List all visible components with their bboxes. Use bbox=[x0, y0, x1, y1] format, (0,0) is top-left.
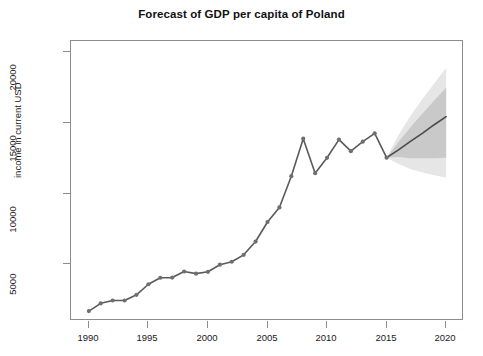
data-point bbox=[289, 174, 293, 178]
x-tick-label: 2005 bbox=[247, 332, 287, 343]
x-tick-label: 2000 bbox=[187, 332, 227, 343]
data-point bbox=[373, 131, 377, 135]
data-point bbox=[218, 263, 222, 267]
data-point bbox=[242, 253, 246, 257]
data-point bbox=[146, 282, 150, 286]
data-point bbox=[182, 269, 186, 273]
data-point bbox=[253, 239, 257, 243]
x-tick-mark bbox=[445, 321, 446, 328]
data-point bbox=[325, 156, 329, 160]
data-point bbox=[313, 171, 317, 175]
series-markers-group bbox=[87, 131, 389, 313]
data-point bbox=[122, 298, 126, 302]
x-tick-mark bbox=[326, 321, 327, 328]
plot-canvas bbox=[71, 41, 462, 319]
x-tick-mark bbox=[207, 321, 208, 328]
data-point bbox=[384, 156, 388, 160]
x-tick-label: 2010 bbox=[306, 332, 346, 343]
data-point bbox=[170, 275, 174, 279]
x-tick-label: 1990 bbox=[68, 332, 108, 343]
series-lines-group bbox=[89, 117, 446, 311]
x-tick-label: 2020 bbox=[425, 332, 465, 343]
data-point bbox=[111, 298, 115, 302]
data-point bbox=[301, 137, 305, 141]
plot-inner bbox=[71, 41, 462, 319]
data-point bbox=[206, 270, 210, 274]
x-tick-mark bbox=[386, 321, 387, 328]
series-line-0 bbox=[89, 133, 387, 311]
data-point bbox=[99, 301, 103, 305]
data-point bbox=[158, 276, 162, 280]
plot-area bbox=[70, 40, 463, 320]
data-point bbox=[134, 293, 138, 297]
x-tick-mark bbox=[267, 321, 268, 328]
data-point bbox=[277, 205, 281, 209]
x-tick-mark bbox=[147, 321, 148, 328]
data-point bbox=[230, 260, 234, 264]
data-point bbox=[194, 272, 198, 276]
x-tick-label: 2015 bbox=[366, 332, 406, 343]
data-point bbox=[265, 220, 269, 224]
x-tick-label: 1995 bbox=[127, 332, 167, 343]
data-point bbox=[87, 309, 91, 313]
chart-root: Forecast of GDP per capita of Poland inc… bbox=[0, 0, 483, 356]
data-point bbox=[361, 140, 365, 144]
data-point bbox=[349, 149, 353, 153]
data-point bbox=[337, 137, 341, 141]
x-tick-mark bbox=[88, 321, 89, 328]
